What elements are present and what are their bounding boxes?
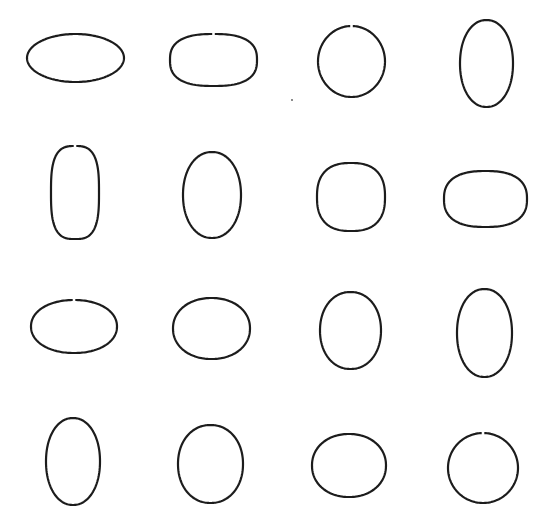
contour-shape-r4-c4-circle: [448, 433, 518, 503]
contour-shape-r1-c1-ellipse: [27, 34, 124, 82]
contour-figure: [0, 0, 559, 523]
contour-shape-r4-c1-ellipse: [46, 418, 100, 505]
contour-shape-r4-c2-ellipse: [178, 425, 243, 503]
contour-shape-r3-c2-ellipse: [173, 298, 250, 359]
contour-shape-r3-c4-ellipse: [457, 289, 512, 377]
contour-shape-r3-c3-ellipse: [320, 292, 381, 369]
contour-shape-r3-c1-ellipse: [31, 300, 117, 353]
stray-dot: [291, 99, 293, 101]
contour-shape-r2-c3-superellipse: [317, 163, 385, 231]
contour-shape-r2-c2-ellipse: [183, 152, 241, 238]
contour-shape-r2-c4-superellipse: [444, 171, 527, 227]
contour-shape-r2-c1-superellipse: [51, 146, 99, 239]
contour-shape-r1-c2-superellipse: [170, 34, 257, 86]
shape-grid: [27, 20, 527, 505]
contour-shape-r1-c3-circle: [318, 26, 385, 97]
contour-shape-r1-c4-ellipse: [460, 20, 513, 107]
contour-shape-r4-c3-ellipse: [312, 434, 386, 497]
